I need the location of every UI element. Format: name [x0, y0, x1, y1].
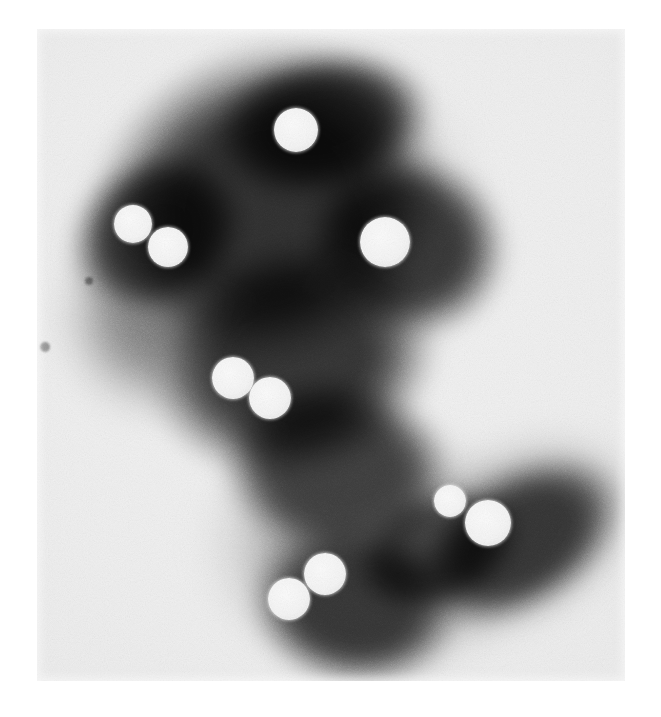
particle-lower-centre-a [304, 553, 346, 595]
particle-middle-a [212, 357, 254, 399]
fleck-left-margin [40, 342, 50, 352]
fleck-left-upper [85, 277, 93, 285]
particle-middle-b [249, 377, 291, 419]
particle-upper-left-b [148, 227, 188, 267]
particle-top [274, 108, 318, 152]
particle-upper-left-a [114, 205, 152, 243]
micrograph-stage: Negatively stained particle cluster micr… [0, 0, 661, 717]
particle-lower-right-small [434, 485, 466, 517]
particle-lower-right-large [465, 500, 511, 546]
particle-lower-centre-b [268, 578, 310, 620]
particle-upper-right [360, 217, 410, 267]
photographic-plate [37, 29, 625, 681]
